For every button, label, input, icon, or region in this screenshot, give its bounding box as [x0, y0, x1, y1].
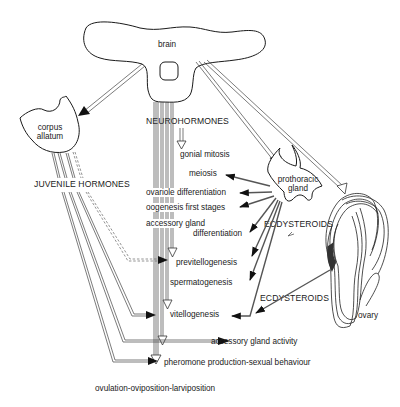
- process-spermatogenesis: spermatogenesis: [170, 278, 232, 287]
- process-gonial-mitosis: gonial mitosis: [180, 150, 230, 159]
- corpus-allatum-label-line2: allatum: [37, 132, 64, 141]
- ovary-label: ovary: [358, 311, 379, 320]
- process-pheromone-production: pheromone production-sexual behaviour: [164, 358, 311, 367]
- process-oogenesis-first-stages: oogenesis first stages: [146, 203, 225, 212]
- arrow-brain-to-corpus-allatum: [78, 64, 145, 116]
- arrowhead-gonial-mitosis: [177, 141, 186, 149]
- ecdysteroid-ovary-arrow: ECDYSTEROIDS: [256, 270, 330, 313]
- juvenile-hormones-label: JUVENILE HORMONES: [34, 179, 130, 189]
- arrowhead-vitellogenesis-neuro: [163, 300, 172, 309]
- brain-label: brain: [158, 40, 177, 49]
- ovary-organ: ovary: [326, 193, 388, 327]
- process-accessory-gland: accessory gland: [146, 219, 206, 228]
- prothoracic-gland-label-line2: gland: [288, 184, 308, 193]
- insect-reproduction-hormone-diagram: brain corpus allatum NEUROHORMONES: [0, 0, 400, 407]
- ecdysteroids-ovary-label: ECDYSTEROIDS: [260, 293, 329, 303]
- process-vitellogenesis: vitellogenesis: [170, 310, 219, 319]
- process-differentiation: differentiation: [193, 229, 242, 238]
- arrowhead-previtellogenesis: [168, 248, 177, 257]
- arrowhead-pheromone: [158, 336, 167, 345]
- prothoracic-gland-organ: prothoracic gland ECDYSTEROIDS: [264, 145, 333, 236]
- prothoracic-gland-label-line1: prothoracic: [278, 175, 319, 184]
- neurohormones-label: NEUROHORMONES: [146, 116, 229, 126]
- process-accessory-gland-activity: accessory gland activity: [211, 337, 298, 346]
- corpus-allatum-label-line1: corpus: [38, 123, 63, 132]
- process-ovulation-oviposition: ovulation-oviposition-larviposition: [95, 384, 216, 393]
- process-meiosis: meiosis: [189, 169, 217, 178]
- process-previtellogenesis: previtellogenesis: [176, 258, 237, 267]
- brain-organ: brain: [84, 22, 266, 102]
- brain-inner-chamber: [160, 62, 178, 80]
- corpus-allatum-organ: corpus allatum: [20, 96, 79, 153]
- ecdysteroids-pointer: [288, 232, 294, 236]
- process-ovariole-differentiation: ovariole differentiation: [146, 188, 226, 197]
